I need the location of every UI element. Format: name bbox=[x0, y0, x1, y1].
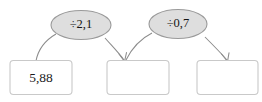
connector-box2-to-op2 bbox=[126, 33, 152, 60]
operation-ellipse-2-label: ÷0,7 bbox=[167, 16, 190, 30]
value-box-1-label: 5,88 bbox=[29, 70, 53, 85]
value-box-3[interactable] bbox=[197, 61, 258, 95]
connector-box1-to-op1 bbox=[36, 34, 56, 61]
operation-ellipse-1-label: ÷2,1 bbox=[70, 17, 93, 31]
division-flow-diagram: 5,88 ÷2,1 ÷0,7 bbox=[0, 0, 262, 102]
value-box-2[interactable] bbox=[107, 61, 169, 95]
diagram-canvas: 5,88 ÷2,1 ÷0,7 bbox=[0, 0, 262, 102]
